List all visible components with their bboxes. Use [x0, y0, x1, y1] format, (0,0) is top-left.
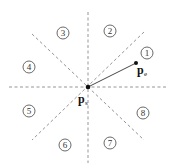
pe-subscript: e	[144, 70, 147, 78]
ps-subscript: s	[85, 99, 88, 107]
sector-1-label: 1	[145, 48, 150, 58]
point-ps	[86, 85, 91, 90]
sector-5-label: 5	[27, 106, 32, 116]
pe-label: p	[137, 63, 144, 77]
ps-label: p	[78, 92, 85, 106]
sector-3-label: 3	[61, 28, 66, 38]
vector-ps-to-pe	[88, 63, 136, 87]
sector-8-label: 8	[141, 108, 146, 118]
sector-6-label: 6	[63, 140, 68, 150]
sector-4-label: 4	[27, 62, 32, 72]
sector-7-label: 7	[108, 138, 113, 148]
direction-sector-diagram: 1 2 3 4 5 6 7 8 p e p s	[0, 0, 173, 168]
sector-2-label: 2	[108, 26, 113, 36]
